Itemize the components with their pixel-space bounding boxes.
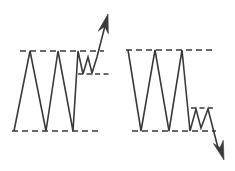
- right-price-line: [128, 50, 218, 148]
- panel-bearish-rectangle-breakdown: [126, 50, 224, 160]
- panel-bullish-rectangle-breakout: [12, 14, 110, 131]
- pattern-diagram: [0, 0, 235, 171]
- left-price-line: [14, 22, 106, 131]
- chart-canvas: [0, 0, 235, 171]
- right-breakdown-arrow-down-icon: [213, 140, 224, 160]
